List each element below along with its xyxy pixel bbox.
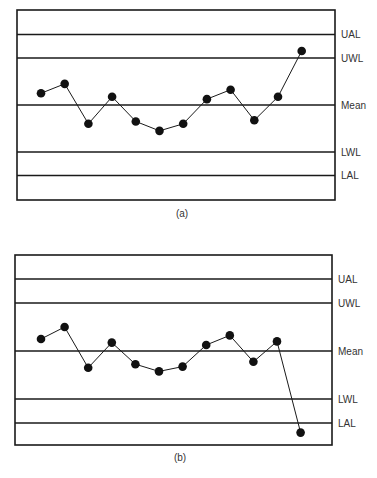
data-point-7 xyxy=(178,362,187,371)
data-point-10 xyxy=(249,358,258,367)
chart-b-caption: (b) xyxy=(160,452,200,463)
chart-frame xyxy=(15,255,332,445)
data-point-7 xyxy=(179,120,188,129)
control-label-uwl: UWL xyxy=(338,298,361,309)
control-label-lal: LAL xyxy=(341,170,359,181)
control-label-mean: Mean xyxy=(338,346,363,357)
data-point-5 xyxy=(132,117,141,126)
chart-a-caption: (a) xyxy=(162,208,202,219)
data-point-2 xyxy=(60,323,69,332)
data-point-11 xyxy=(274,92,283,101)
control-label-lal: LAL xyxy=(338,418,356,429)
control-label-ual: UAL xyxy=(341,29,361,40)
control-label-uwl: UWL xyxy=(341,53,364,64)
series-line xyxy=(41,327,301,433)
chart-b-plot: UALUWLMeanLWLLAL xyxy=(0,245,377,478)
control-chart-b: UALUWLMeanLWLLAL (b) xyxy=(0,245,377,478)
data-point-8 xyxy=(203,95,212,104)
control-label-lwl: LWL xyxy=(338,394,358,405)
chart-a-plot: UALUWLMeanLWLLAL xyxy=(0,0,377,225)
control-chart-a: UALUWLMeanLWLLAL (a) xyxy=(0,0,377,225)
data-point-10 xyxy=(250,116,259,125)
data-point-6 xyxy=(155,127,164,136)
data-point-8 xyxy=(202,341,211,350)
data-point-4 xyxy=(108,92,117,101)
data-point-6 xyxy=(155,367,164,376)
control-label-lwl: LWL xyxy=(341,147,361,158)
data-point-9 xyxy=(226,331,235,340)
data-point-5 xyxy=(131,360,140,369)
data-point-11 xyxy=(273,337,282,346)
control-label-mean: Mean xyxy=(341,100,366,111)
data-point-4 xyxy=(108,338,117,347)
data-point-3 xyxy=(84,120,93,129)
data-point-1 xyxy=(37,89,46,98)
data-point-9 xyxy=(226,85,235,94)
data-point-2 xyxy=(60,80,69,89)
data-point-12 xyxy=(297,47,306,56)
control-label-ual: UAL xyxy=(338,274,358,285)
data-point-3 xyxy=(84,364,93,373)
series-line xyxy=(41,51,302,131)
data-point-1 xyxy=(37,335,46,344)
data-point-12 xyxy=(296,428,305,437)
